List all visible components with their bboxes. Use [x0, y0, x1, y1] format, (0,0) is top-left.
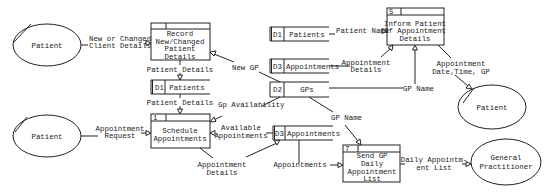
flow-patient-details-to-store: Patient Details [147, 60, 214, 80]
process-schedule-appointments: 1 Schedule Appointments [151, 114, 210, 148]
flow-appointment-date-time-gp: Appointment Date,Time, GP [432, 45, 490, 89]
store-code: D1 [273, 31, 282, 39]
data-store-d1-patients-left: D1 Patients [151, 80, 210, 94]
process-label-line: Details [399, 35, 430, 43]
flow-label-line: GP Name [403, 85, 434, 93]
flow-label-line: Patient Details [147, 99, 214, 107]
flow-label-line: GP Name [331, 114, 362, 122]
flow-label-line: Appointment [437, 60, 486, 68]
store-code: D3 [273, 63, 282, 71]
data-store-d3-appointments-top: D3 Appointments [270, 59, 339, 73]
external-entity-patient-top: Patient [13, 24, 81, 66]
store-code: D3 [275, 130, 284, 138]
entity-label: Patient [31, 42, 62, 50]
flow-patient-name: Patient Name [329, 27, 389, 35]
store-label: GPs [300, 86, 313, 94]
entity-label-line-1: General [490, 154, 522, 162]
process-label-line: Record [167, 30, 194, 38]
flow-label-line: Patient Name [336, 27, 389, 35]
data-store-d3-appointments-bottom: D3 Appointments [273, 126, 340, 140]
data-flow-diagram: Patient Patient Patient General Practiti… [0, 0, 551, 192]
external-entity-general-practitioner: General Practitioner [471, 139, 541, 185]
process-label-line: Send GP [356, 152, 388, 160]
process-inform-patient: 5 Inform Patient Of Appointment Details [384, 8, 446, 45]
data-store-d1-patients-top: D1 Patients [270, 27, 329, 41]
data-store-d2-gps: D2 GPs [270, 82, 329, 97]
flow-appointment-request: Appointment Request [81, 125, 151, 140]
flow-new-or-changed-client-details: New or Changed Client Details [81, 35, 151, 50]
flow-label-line: Available [221, 124, 261, 132]
entity-label: Patient [31, 133, 62, 141]
process-record-patient-details: Record New/Changed Patient Details [151, 23, 210, 61]
entity-label: Patient [476, 104, 507, 112]
flow-available-appointments: Available Appointments [210, 124, 273, 140]
process-label-line: Details [164, 53, 195, 61]
process-label-line: Appointments [153, 135, 206, 143]
process-label-line: Patient [164, 45, 195, 53]
flow-label-line: Patient Details [147, 66, 214, 74]
process-label-line: Of Appointment [384, 27, 446, 35]
flow-label-line: Request [104, 132, 135, 140]
process-send-gp-list: 7 Send GP Daily Appointment List [343, 145, 400, 183]
entity-label-line-2: Practitioner [479, 163, 532, 171]
process-label-line: Schedule [162, 127, 197, 135]
process-number: 5 [389, 8, 393, 16]
flow-patient-details-to-schedule: Patient Details [147, 94, 214, 114]
process-number: 7 [345, 145, 349, 153]
store-label: Appointments [287, 130, 340, 138]
process-label-line: Daily [361, 160, 384, 168]
store-label: Patients [169, 84, 204, 92]
external-entity-patient-bottom: Patient [13, 115, 81, 157]
flow-label-line: Gp Availability [218, 101, 285, 109]
flow-label-line: Details [206, 169, 237, 177]
store-label: Patients [289, 31, 324, 39]
flow-label-line: Client Details [89, 42, 151, 50]
process-number: 1 [153, 114, 158, 122]
store-code: D1 [155, 84, 164, 92]
flow-label-line: Appointments [273, 161, 326, 169]
flow-daily-appointment-list: Daily Appointm- ent List [400, 156, 471, 172]
external-entity-patient-right: Patient [458, 85, 526, 129]
flow-appointments-to-send: Appointments [273, 140, 343, 169]
process-label-line: List [363, 175, 381, 183]
flow-label-line: ent List [416, 164, 451, 172]
store-code: D2 [273, 86, 282, 94]
store-label: Appointments [286, 63, 339, 71]
flow-label-line: Appointment [198, 161, 247, 169]
flow-gp-availability: Gp Availability [210, 97, 285, 122]
flow-label-line: Appointments [214, 132, 267, 140]
flow-label-line: Daily Appointm- [401, 156, 468, 164]
flow-label-line: Details [350, 66, 381, 74]
flow-label-line: Date,Time, GP [432, 68, 490, 76]
flow-label-line: New GP [232, 64, 259, 72]
